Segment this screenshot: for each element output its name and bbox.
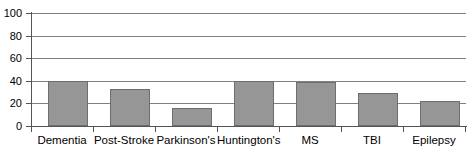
x-tick-6 [403,127,404,132]
y-tick-label-20: 20 [0,98,22,109]
y-tick-label-40: 40 [0,76,22,87]
x-axis-line [31,126,467,127]
x-tick-2 [155,127,156,132]
gridline-100 [31,13,466,14]
x-tick-3 [217,127,218,132]
y-tick-label-80: 80 [0,31,22,42]
y-tick-label-100: 100 [0,8,22,19]
x-tick-5 [341,127,342,132]
x-label-ms: MS [279,134,341,147]
plot-area [31,13,466,126]
x-label-dementia: Dementia [31,134,93,147]
y-tick-60 [26,58,32,59]
x-label-parkinsons: Parkinson's [155,134,217,147]
bar-ms [296,82,336,126]
bar-chart: 100 80 60 40 20 0 Dementia Post-Stroke P… [0,0,473,160]
x-tick-0 [31,127,32,132]
y-tick-40 [26,81,32,82]
x-label-post-stroke: Post-Stroke [93,134,155,147]
bar-tbi [358,93,398,126]
y-tick-label-60: 60 [0,53,22,64]
gridline-80 [31,36,466,37]
y-tick-20 [26,103,32,104]
bar-huntingtons [234,81,274,126]
x-tick-4 [279,127,280,132]
x-tick-7 [465,127,466,132]
y-axis-line [31,12,32,127]
bar-parkinsons [172,108,212,126]
gridline-60 [31,58,466,59]
x-label-tbi: TBI [341,134,403,147]
y-tick-100 [26,13,32,14]
y-tick-label-0: 0 [0,121,22,132]
x-label-huntingtons: Huntington's [217,134,279,147]
x-label-epilepsy: Epilepsy [403,134,465,147]
bar-epilepsy [420,101,460,126]
bar-post-stroke [110,89,150,126]
bar-dementia [48,81,88,126]
y-tick-80 [26,36,32,37]
x-tick-1 [93,127,94,132]
